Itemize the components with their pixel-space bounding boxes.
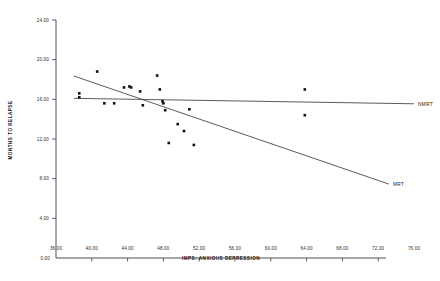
y-tick-label: 16.00	[37, 97, 50, 102]
x-tick-label: 72.00	[372, 246, 385, 251]
series-labels: NMRTMRT	[393, 102, 433, 187]
y-tick-label: 24.00	[37, 18, 50, 23]
data-point	[123, 86, 126, 89]
data-points	[78, 70, 306, 146]
data-point	[156, 74, 159, 77]
scatter-chart: 24.0020.0016.0012.008.004.00 36.0040.004…	[0, 0, 440, 281]
data-point	[304, 88, 307, 91]
data-point	[78, 96, 81, 99]
x-tick-label: 52.00	[193, 246, 206, 251]
x-tick-label: 68.00	[336, 246, 349, 251]
x-tick-label: 64.00	[300, 246, 313, 251]
y-tick-label: 8.00	[39, 176, 49, 181]
series-label-mrt: MRT	[393, 182, 405, 187]
data-point	[304, 114, 307, 117]
data-point	[164, 109, 167, 112]
data-point	[188, 108, 191, 111]
x-tick-label: 48.00	[157, 246, 170, 251]
data-point	[103, 102, 106, 105]
data-point	[193, 144, 196, 147]
data-point	[130, 86, 133, 89]
x-tick-label: 60.00	[265, 246, 278, 251]
x-tick-label: 56.00	[229, 246, 242, 251]
origin-label: 0.00	[40, 256, 50, 261]
y-tick-label: 20.00	[37, 57, 50, 62]
y-axis-ticks: 24.0020.0016.0012.008.004.00	[37, 18, 56, 221]
x-tick-label: 44.00	[121, 246, 134, 251]
data-point	[162, 102, 165, 105]
data-point	[139, 90, 142, 93]
data-point	[78, 92, 81, 95]
chart-canvas: 24.0020.0016.0012.008.004.00 36.0040.004…	[0, 0, 440, 281]
fit-line-nmrt	[74, 98, 414, 103]
data-point	[183, 130, 186, 133]
y-tick-label: 4.00	[39, 216, 49, 221]
data-point	[167, 142, 170, 145]
data-point	[96, 70, 99, 73]
x-axis-title: IMPS: ANXIOUS DEPRESSION	[182, 256, 260, 261]
x-tick-label: 36.00	[50, 246, 63, 251]
x-tick-label: 40.00	[86, 246, 99, 251]
y-tick-label: 12.00	[37, 137, 50, 142]
x-tick-label: 76.00	[408, 246, 421, 251]
data-point	[176, 123, 179, 126]
data-point	[142, 104, 145, 107]
data-point	[113, 102, 116, 105]
regression-lines	[74, 76, 414, 184]
data-point	[159, 88, 162, 91]
series-label-nmrt: NMRT	[418, 102, 433, 107]
y-axis-title: MONTHS TO RELAPSE	[8, 101, 13, 160]
fit-line-mrt	[74, 76, 389, 184]
